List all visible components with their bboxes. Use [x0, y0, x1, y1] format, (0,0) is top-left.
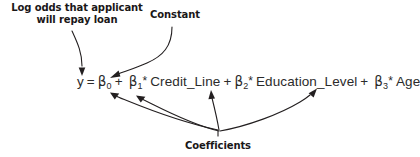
- arrow-constant-to-beta0: [118, 27, 172, 74]
- equation-plus-3: +: [360, 74, 368, 89]
- label-log-odds: Log odds that applicant will repay loan: [8, 2, 146, 25]
- equation-plus-1: +: [115, 74, 123, 89]
- arrow-log-odds-to-y: [72, 31, 82, 66]
- equation-term-3-variable: Age: [396, 74, 420, 89]
- label-constant: Constant: [130, 9, 220, 21]
- regression-equation: y=β0+β1*Credit_Line+β2*Education_Level+β…: [77, 74, 420, 90]
- arrowhead-coefficients-to-beta2: [208, 90, 215, 99]
- arrow-coefficients-to-beta2: [212, 98, 219, 130]
- arrowhead-coefficients-to-beta1b: [136, 96, 145, 103]
- arrow-coefficients-to-beta1b: [143, 100, 219, 132]
- equation-term-1-variable: Credit_Line: [150, 74, 220, 89]
- equation-multiply-3: *: [388, 74, 393, 88]
- equation-plus-2: +: [223, 74, 231, 89]
- equation-term-2-coefficient: β: [234, 73, 243, 89]
- equation-response: y: [77, 74, 84, 89]
- equation-multiply-1: *: [142, 74, 147, 88]
- equation-term-3-coefficient: β: [374, 73, 383, 89]
- equation-term-2-variable: Education_Level: [256, 74, 357, 89]
- label-coefficients: Coefficients: [173, 140, 263, 152]
- arrow-coefficients-to-beta3: [220, 95, 310, 131]
- equation-multiply-2: *: [248, 74, 253, 88]
- equation-intercept-symbol: β: [98, 73, 107, 89]
- arrow-coefficients-to-beta1: [117, 97, 218, 131]
- equation-equals: =: [87, 74, 95, 89]
- arrowhead-coefficients-to-beta1: [110, 93, 119, 100]
- equation-intercept-subscript: 0: [107, 81, 112, 91]
